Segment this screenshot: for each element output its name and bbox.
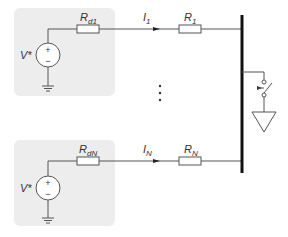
source-plus-n: + [45,178,50,188]
current-arrow-1-icon [153,27,160,31]
source-label-1: V* [20,49,32,61]
resistor-rdn [77,157,99,165]
source-minus-n: − [45,189,50,199]
current-arrow-n-icon [153,159,160,163]
switch-contact-bottom-icon [262,93,266,97]
ellipsis-dots-icon [159,85,161,101]
ground-load-triangle-icon [252,112,276,132]
resistor-r1 [179,25,201,33]
resistor-r1-label: R1 [184,11,196,26]
resistor-rn [179,157,201,165]
switch-blade-icon [264,83,272,93]
circuit-diagram: + − V* Rd1 I1 R1 + − [0,0,288,237]
switch-contact-top-icon [262,80,266,84]
current-in-label: IN [143,143,152,158]
resistor-rd1 [77,25,99,33]
source-minus-1: − [45,56,50,66]
source-plus-1: + [45,45,50,55]
current-i1-label: I1 [143,11,151,26]
load-branch [242,72,276,132]
resistor-rn-label: RN [184,143,198,158]
branch-n: + − V* RdN IN RN [14,140,242,226]
source-label-n: V* [20,182,32,194]
branch-1: + − V* Rd1 I1 R1 [14,8,242,96]
